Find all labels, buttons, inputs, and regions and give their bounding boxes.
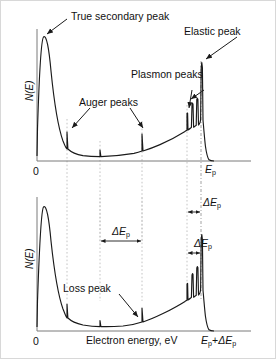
dl-E-glyph: E (119, 225, 126, 237)
guide-lines (67, 105, 187, 301)
lower-annotation-arrows (119, 294, 138, 317)
upper-x-end-label: Ep (205, 164, 216, 175)
dru-delta-glyph: Δ (203, 196, 210, 208)
label-loss-peak: Loss peak (63, 283, 111, 294)
spectrum-figure (1, 1, 276, 359)
dl-p-glyph: p (126, 231, 130, 239)
dru-p-glyph: p (217, 202, 221, 210)
label-auger-peaks: Auger peaks (79, 97, 138, 108)
lower-x-origin-label: 0 (33, 336, 39, 347)
lower-y-axis-label: N(E) (25, 248, 35, 269)
figure-container: True secondary peak Auger peaks Plasmon … (0, 0, 276, 359)
ep-E-glyph: E (205, 163, 212, 175)
upper-panel (37, 29, 251, 161)
arrow-auger-left (72, 108, 90, 128)
label-delta-ep-left: ΔEp (112, 226, 130, 237)
dl-delta-glyph: Δ (112, 225, 119, 237)
label-elastic-peak: Elastic peak (184, 26, 241, 37)
drl-p-glyph: p (208, 243, 212, 251)
label-true-secondary-peak: True secondary peak (71, 11, 169, 22)
label-delta-ep-right-upper: ΔEp (203, 197, 221, 208)
drl-delta-glyph: Δ (194, 237, 201, 249)
upper-y-axis-label: N(E) (25, 80, 35, 101)
ep-p-glyph: p (212, 169, 216, 177)
lower-panel (37, 197, 251, 331)
arrow-elastic-peak (206, 37, 237, 59)
lower-x-end-label: Ep+ΔEp (201, 335, 236, 346)
epd-p1-glyph: p (208, 340, 212, 348)
label-plasmon-peaks: Plasmon peaks (131, 69, 203, 80)
dru-E-glyph: E (210, 196, 217, 208)
drl-E-glyph: E (201, 237, 208, 249)
arrow-true-secondary-peak (47, 19, 67, 34)
upper-x-origin-label: 0 (33, 166, 39, 177)
epd-p2-glyph: p (232, 340, 236, 348)
arrow-loss-peak (119, 294, 138, 317)
arrow-auger-right (130, 108, 143, 128)
label-delta-ep-right-lower: ΔEp (194, 238, 212, 249)
lower-x-axis-label: Electron energy, eV (86, 335, 177, 346)
arrow-plasmon-2 (191, 90, 204, 99)
epd-E1-glyph: E (201, 334, 208, 346)
